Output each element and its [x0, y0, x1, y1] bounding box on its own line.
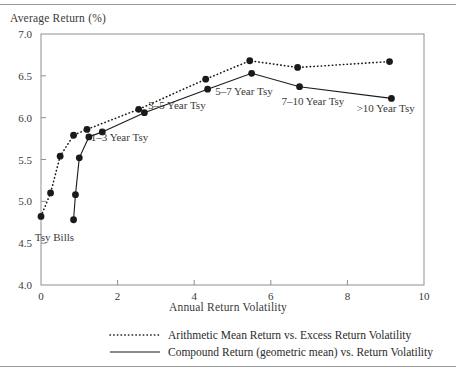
- y-tick-label: 5.5: [18, 154, 32, 166]
- point-annotation: 5–7 Year Tsy: [215, 85, 273, 97]
- axes-frame: [41, 34, 424, 285]
- y-tick-group: 4.04.55.05.56.06.57.0: [18, 28, 46, 291]
- point-annotation: 3–5 Year Tsy: [148, 99, 206, 111]
- legend-label-0: Arithmetic Mean Return vs. Excess Return…: [168, 329, 412, 342]
- data-point: [84, 126, 91, 133]
- point-annotation: 1–3 Year Tsy: [91, 131, 149, 143]
- data-point: [386, 58, 393, 65]
- y-tick-label: 4.0: [18, 279, 32, 291]
- annotation-group: Tsy Bills1–3 Year Tsy3–5 Year Tsy5–7 Yea…: [35, 85, 415, 243]
- data-point: [76, 154, 83, 161]
- data-point: [38, 213, 45, 220]
- y-tick-label: 6.0: [18, 112, 32, 124]
- y-tick-label: 7.0: [18, 28, 32, 40]
- data-point: [388, 95, 395, 102]
- data-point: [57, 153, 64, 160]
- data-point: [202, 76, 209, 83]
- data-point: [47, 190, 54, 197]
- data-point: [294, 64, 301, 71]
- point-annotation: >10 Year Tsy: [357, 102, 416, 114]
- x-tick-label: 10: [419, 290, 431, 302]
- x-tick-label: 6: [268, 290, 274, 302]
- x-tick-group: 0246810: [38, 280, 430, 302]
- x-tick-label: 4: [191, 290, 197, 302]
- point-annotation: 7–10 Year Tsy: [281, 95, 344, 107]
- y-tick-label: 5.0: [18, 195, 32, 207]
- data-point: [246, 57, 253, 64]
- x-tick-label: 8: [345, 290, 351, 302]
- point-annotation: Tsy Bills: [35, 231, 74, 243]
- data-point: [296, 83, 303, 90]
- x-tick-label: 2: [115, 290, 121, 302]
- data-point: [70, 132, 77, 139]
- data-point: [204, 86, 211, 93]
- y-tick-label: 4.5: [18, 237, 32, 249]
- data-point: [135, 106, 142, 113]
- data-point: [248, 70, 255, 77]
- legend-group: Arithmetic Mean Return vs. Excess Return…: [110, 329, 433, 359]
- chart-figure: Average Return (%) Annual Return Volatil…: [0, 0, 456, 371]
- data-point: [141, 109, 148, 116]
- data-point: [70, 216, 77, 223]
- y-tick-label: 6.5: [18, 70, 32, 82]
- plot-area: 4.04.55.05.56.06.57.0 0246810 Tsy Bills1…: [0, 0, 456, 371]
- legend-label-1: Compound Return (geometric mean) vs. Ret…: [168, 346, 433, 359]
- x-tick-label: 0: [38, 290, 44, 302]
- data-point: [72, 191, 79, 198]
